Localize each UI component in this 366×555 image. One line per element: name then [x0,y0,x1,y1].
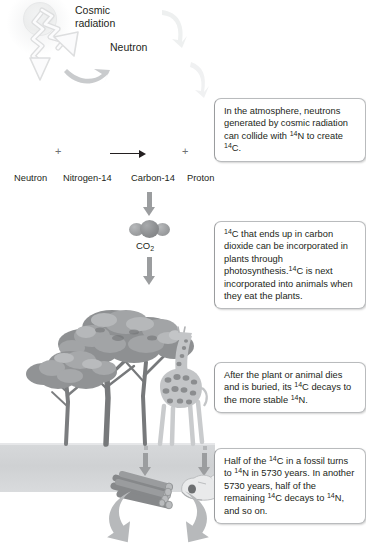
callout-photosynthesis: 14C that ends up in carbon dioxide can b… [214,221,366,309]
cycle-arrow-right [185,60,213,102]
decay-arrow-left [100,495,156,555]
co2-carbon-atom [140,220,159,238]
callout-burial-decay-text: After the plant or animal dies and is bu… [224,370,351,405]
callout-burial-decay: After the plant or animal dies and is bu… [214,362,366,413]
cosmic-radiation-label-line2: radiation [75,17,115,30]
giraffe [146,330,210,446]
equation-reaction-arrow-head [139,150,146,158]
cycle-arrow-mid [62,66,114,92]
decay-arrow-right [160,495,216,555]
callout-atmosphere: In the atmosphere, neutrons generated by… [214,98,366,162]
arrow-to-co2-stem [147,192,152,208]
co2-label-text: CO [136,240,150,251]
co2-label-subscript: 2 [150,245,154,252]
equation-plus-right: + [182,145,188,157]
equation-plus-left: + [55,145,61,157]
arrow-to-plants-head [143,276,155,285]
burial-arrow-right-dash [203,446,207,450]
arrow-to-plants-stem [147,257,152,277]
co2-label: CO2 [136,240,154,252]
cycle-arrow-top-right [158,6,190,50]
callout-half-life-text: Half of the 14C in a fossil turns to 14N… [224,456,354,516]
equation-term-proton: Proton [187,173,214,183]
burial-arrow-left-dash [144,446,148,450]
callout-photosynthesis-text: 14C that ends up in carbon dioxide can b… [224,229,353,301]
burial-arrow-right-stem [202,453,207,468]
callout-atmosphere-text: In the atmosphere, neutrons generated by… [224,106,348,153]
cosmic-radiation-label-line1: Cosmic [75,4,110,17]
acacia-tree-small [18,340,128,446]
equation-term-carbon-14: Carbon-14 [131,173,175,183]
callout-half-life: Half of the 14C in a fossil turns to 14N… [214,448,366,524]
neutron-label: Neutron [110,41,147,54]
equation-term-neutron: Neutron [14,173,47,183]
arrow-to-co2-head [143,207,155,216]
equation-reaction-arrow-line [110,153,140,154]
equation-term-nitrogen-14: Nitrogen-14 [63,173,112,183]
